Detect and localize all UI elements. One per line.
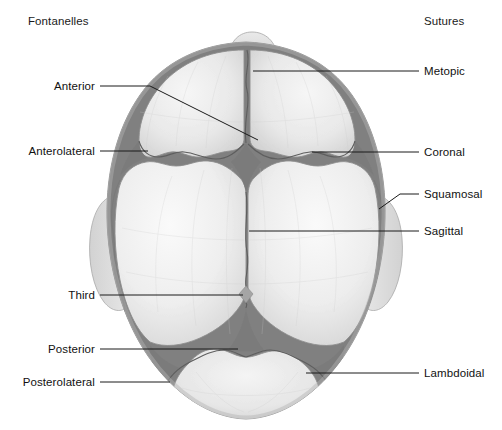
label-posterolateral: Posterolateral <box>23 376 95 388</box>
heading-fontanelles: Fontanelles <box>28 15 89 27</box>
label-squamosal: Squamosal <box>424 188 482 200</box>
label-metopic: Metopic <box>424 65 465 77</box>
label-anterior: Anterior <box>54 80 95 92</box>
bone-left-frontal <box>139 50 244 157</box>
label-anterolateral: Anterolateral <box>28 145 95 157</box>
label-posterior: Posterior <box>48 343 95 355</box>
figure-canvas: Fontanelles Sutures AnteriorAnterolatera… <box>0 0 502 430</box>
label-third: Third <box>68 289 95 301</box>
bone-right-frontal <box>250 50 355 157</box>
label-lambdoidal: Lambdoidal <box>424 367 484 379</box>
bone-right-parietal <box>248 161 379 346</box>
label-sagittal: Sagittal <box>424 225 463 237</box>
heading-sutures: Sutures <box>424 15 464 27</box>
label-coronal: Coronal <box>424 146 465 158</box>
